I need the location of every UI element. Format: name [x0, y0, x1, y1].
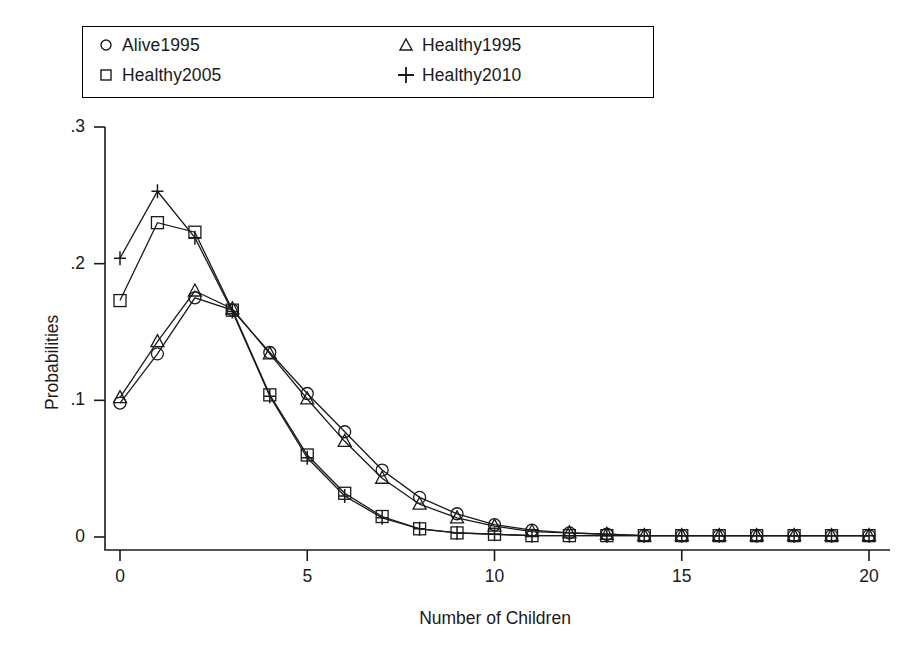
x-tick-label: 0 — [115, 566, 125, 587]
series-line — [120, 223, 869, 536]
x-tick-label: 10 — [485, 566, 504, 587]
series-alive1995 — [114, 292, 875, 542]
x-tick-label: 5 — [302, 566, 312, 587]
series-line — [120, 291, 869, 536]
axis-spine — [105, 127, 890, 550]
x-tick-label: 15 — [672, 566, 691, 587]
y-tick-label: 0 — [75, 526, 85, 547]
data-point-marker — [451, 526, 463, 540]
y-tick-label: .3 — [70, 116, 85, 137]
y-tick-label: .2 — [70, 253, 85, 274]
y-tick-label: .1 — [70, 389, 85, 410]
chart-figure: Alive1995 Healthy2005 Healthy1995 Health… — [0, 0, 914, 653]
x-tick-label: 20 — [859, 566, 878, 587]
plot-area — [0, 0, 914, 653]
series-healthy2005 — [114, 217, 875, 542]
series-healthy1995 — [114, 284, 876, 541]
series-healthy2010 — [114, 184, 875, 542]
data-point-marker — [563, 529, 575, 543]
series-line — [120, 191, 869, 535]
data-point-marker — [114, 251, 126, 265]
data-point-marker — [414, 522, 426, 536]
series-line — [120, 298, 869, 536]
